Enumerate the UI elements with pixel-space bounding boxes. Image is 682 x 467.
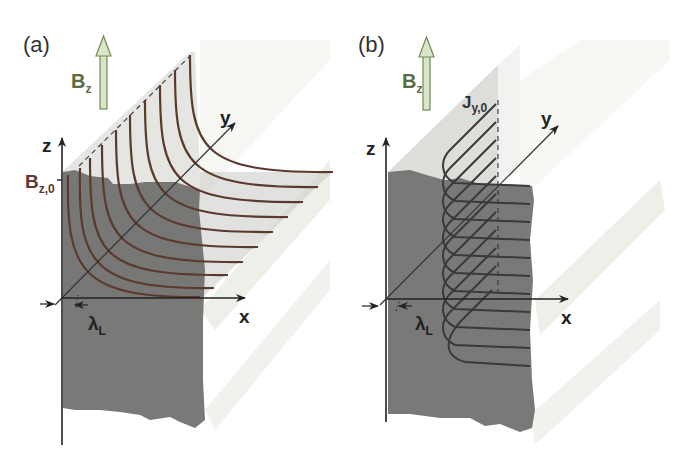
z-axis-label-b: z (366, 138, 376, 159)
bz-field-arrow (419, 37, 434, 110)
superconductor-slab (63, 170, 205, 428)
surface-field-label-a: Bz,0 (25, 171, 55, 196)
superconductor-field-penetration-diagram: (a) Bz z Bz,0 y x λL (0, 0, 682, 467)
y-axis-label-b: y (541, 108, 552, 129)
bz-label-a: Bz (71, 70, 91, 96)
panel-b: (b) Bz Jy,0 z y x λL (358, 32, 670, 445)
background-plane (535, 180, 665, 335)
bz-field-arrow (96, 36, 111, 109)
x-axis-label-a: x (239, 306, 250, 327)
y-axis-label-a: y (220, 107, 231, 128)
panel-label-b: (b) (358, 32, 385, 57)
current-plane-extension (498, 45, 520, 185)
z-axis-label-a: z (42, 135, 52, 156)
panel-label-a: (a) (23, 32, 50, 57)
panel-a: (a) Bz z Bz,0 y x λL (23, 32, 333, 445)
x-axis-label-b: x (561, 307, 572, 328)
bz-label-b: Bz (402, 70, 422, 96)
